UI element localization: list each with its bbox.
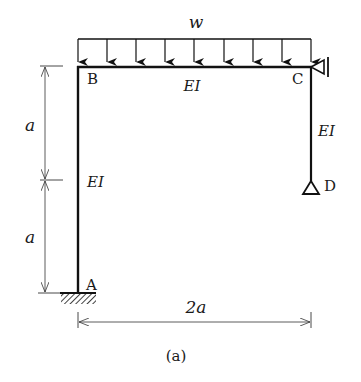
dim-label-upper: a [25, 115, 35, 135]
roller-support-C [311, 57, 328, 77]
node-label-C: C [292, 70, 303, 88]
node-label-B: B [87, 70, 98, 88]
pin-support-D [303, 181, 319, 194]
frame-members [77, 66, 312, 293]
dim-label-bottom: 2a [185, 297, 207, 317]
member-label-BC: EI [183, 77, 202, 95]
node-label-A: A [85, 276, 97, 294]
distributed-load: w [78, 12, 311, 62]
member-label-AB: EI [86, 173, 105, 191]
load-label: w [189, 12, 204, 32]
left-dimension: a a [25, 66, 63, 293]
member-label-CD: EI [317, 122, 336, 140]
node-label-D: D [324, 177, 336, 195]
fixed-support-A [60, 293, 96, 304]
dim-label-lower: a [25, 227, 35, 247]
bottom-dimension: 2a [78, 297, 311, 328]
frame-diagram: w B C A D EI EI EI a a 2a [0, 0, 361, 382]
load-arrows [78, 39, 311, 62]
figure-caption: (a) [166, 347, 187, 365]
